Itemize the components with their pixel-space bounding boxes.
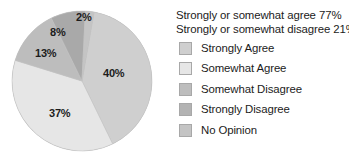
legend-item-label: No Opinion (201, 125, 257, 136)
pie-chart-screenshot: 40%37%13%8%2% Strongly or somewhat agree… (0, 0, 349, 160)
legend-item-label: Strongly Agree (201, 43, 274, 54)
pie-slice-paths (12, 11, 152, 151)
legend-item[interactable]: Somewhat Disagree (179, 79, 349, 100)
legend-items-list: Strongly AgreeSomewhat AgreeSomewhat Dis… (179, 38, 349, 141)
pie-slices-group (12, 11, 152, 151)
chart-legend: Strongly or somewhat agree 77% Strongly … (176, 0, 349, 160)
legend-summary: Strongly or somewhat agree 77% Strongly … (176, 9, 349, 36)
legend-color-swatch (179, 42, 192, 55)
legend-item[interactable]: Strongly Agree (179, 38, 349, 59)
pie-slice-label: 37% (49, 108, 70, 119)
legend-color-swatch (179, 83, 192, 96)
pie-slice-label: 2% (76, 12, 92, 23)
legend-color-swatch (179, 103, 192, 116)
pie-slice-label: 40% (103, 68, 124, 79)
pie-slice-label: 13% (35, 48, 56, 59)
legend-item-label: Somewhat Agree (201, 63, 286, 74)
pie-chart-svg (0, 0, 168, 160)
pie-chart: 40%37%13%8%2% (0, 0, 168, 160)
legend-item[interactable]: Strongly Disagree (179, 100, 349, 121)
legend-color-swatch (179, 62, 192, 75)
summary-disagree-line: Strongly or somewhat disagree 21% (176, 23, 349, 37)
summary-agree-line: Strongly or somewhat agree 77% (176, 9, 349, 23)
legend-item[interactable]: No Opinion (179, 120, 349, 141)
legend-item-label: Strongly Disagree (201, 104, 290, 115)
pie-slice-label: 8% (50, 27, 66, 38)
legend-item[interactable]: Somewhat Agree (179, 59, 349, 80)
legend-item-label: Somewhat Disagree (201, 84, 302, 95)
legend-color-swatch (179, 124, 192, 137)
